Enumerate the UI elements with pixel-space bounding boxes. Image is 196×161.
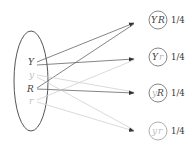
svg-text:R: R (156, 88, 164, 98)
probability-YR: 1/4 (171, 15, 185, 25)
offspring-YR: Y R 1/4 (149, 11, 185, 29)
arrow-r-to-yr (37, 102, 134, 131)
gamete-y: y (28, 70, 35, 80)
svg-text:r: r (159, 52, 164, 62)
offspring-Yr: Y r 1/4 (149, 48, 185, 66)
offspring-yr: y r 1/4 (149, 122, 185, 140)
svg-text:Y: Y (151, 15, 158, 25)
arrow-Y-to-Yr (37, 59, 134, 65)
svg-text:y: y (151, 126, 158, 136)
offspring-yR: y R 1/4 (149, 84, 185, 102)
gamete-R: R (26, 84, 34, 94)
arrow-y-to-yr (37, 77, 134, 130)
svg-text:Y: Y (152, 52, 159, 62)
gamete-diagram: Y y R r Y R 1/4 Y r 1/4 y R 1/4 y r 1/4 (0, 0, 196, 161)
arrow-r-to-Yr (37, 60, 134, 100)
arrow-lines (37, 23, 134, 131)
gamete-Y: Y (28, 57, 35, 67)
svg-text:R: R (157, 15, 165, 25)
probability-Yr: 1/4 (171, 52, 185, 62)
svg-text:r: r (158, 126, 163, 136)
parent-ellipse (14, 31, 48, 131)
probability-yR: 1/4 (171, 88, 185, 98)
probability-yr: 1/4 (171, 126, 185, 136)
gamete-r: r (29, 96, 34, 106)
